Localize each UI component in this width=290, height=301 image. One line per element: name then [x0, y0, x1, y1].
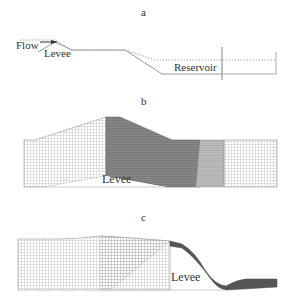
- levee-label-b: Levee: [102, 172, 131, 187]
- levee-label-c: Levee: [171, 270, 200, 285]
- panel-b-mesh: [0, 0, 290, 301]
